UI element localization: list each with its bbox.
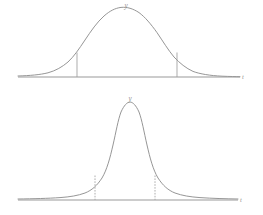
- top-x-axis-label: t: [242, 73, 244, 80]
- normal-distribution-figure: y t y t: [0, 0, 263, 215]
- wide-normal-curve: [18, 7, 240, 76]
- narrow-normal-curve: [18, 102, 238, 199]
- top-y-axis-label: y: [123, 2, 128, 10]
- bottom-panel: y t: [18, 95, 242, 203]
- bottom-y-axis-label: y: [127, 95, 132, 103]
- figure-canvas: y t y t: [0, 0, 263, 215]
- top-panel: y t: [18, 2, 244, 80]
- bottom-x-axis-label: t: [240, 196, 242, 203]
